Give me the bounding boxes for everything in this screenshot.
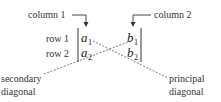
entry-a1-sub: 1 xyxy=(88,38,92,47)
entry-a1-base: a xyxy=(81,30,88,45)
entry-b1-base: b xyxy=(127,30,134,45)
column-1-label: column 1 xyxy=(28,9,66,20)
entry-b2-sub: 2 xyxy=(134,53,138,62)
entry-b2: b 2 xyxy=(127,45,138,62)
column-2-arrow-line xyxy=(133,15,151,23)
principal-diagonal-label-line2: diagonal xyxy=(169,86,204,97)
column-2-label: column 2 xyxy=(154,9,192,20)
entry-a2-base: a xyxy=(81,45,88,60)
row-2-label: row 2 xyxy=(46,48,69,59)
column-1-arrow-line xyxy=(72,15,86,23)
entry-a2: a 2 xyxy=(81,45,92,62)
determinant-diagram: column 1 column 2 row 1 row 2 a 1 a 2 b … xyxy=(0,0,221,102)
secondary-diagonal-label-line1: secondary xyxy=(1,73,42,84)
entry-b1-sub: 1 xyxy=(134,38,138,47)
column-1-arrowhead-icon xyxy=(84,22,89,27)
principal-diagonal-label-line1: principal xyxy=(169,73,205,84)
entry-b2-base: b xyxy=(127,45,134,60)
entry-a2-sub: 2 xyxy=(88,53,92,62)
secondary-diagonal-label-line2: diagonal xyxy=(1,86,36,97)
row-1-label: row 1 xyxy=(46,33,69,44)
column-2-arrowhead-icon xyxy=(131,22,136,27)
